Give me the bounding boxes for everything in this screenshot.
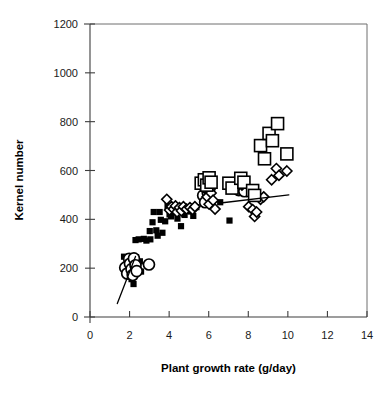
point-open-square [259, 153, 271, 165]
y-tick-label-0: 0 [72, 311, 78, 323]
chart-figure: 020040060080010001200 02468101214 Plant … [0, 0, 390, 393]
y-tick-label-1200: 1200 [54, 18, 78, 30]
y-tick-label-400: 400 [60, 213, 78, 225]
point-open-square [205, 176, 217, 188]
scatter-plot: 020040060080010001200 02468101214 Plant … [0, 0, 390, 393]
point-filled-square [178, 223, 184, 229]
point-open-circle [131, 266, 142, 277]
x-tick-label-4: 4 [166, 329, 172, 341]
point-open-square [255, 140, 267, 152]
y-tick-label-800: 800 [60, 116, 78, 128]
point-filled-square [151, 209, 157, 215]
point-filled-square [130, 281, 136, 287]
x-tick-label-6: 6 [206, 329, 212, 341]
y-tick-label-200: 200 [60, 262, 78, 274]
y-axis-title: Kernel number [13, 139, 25, 221]
data-series-layer [120, 118, 293, 288]
x-axis-tick-labels: 02468101214 [87, 329, 373, 341]
y-tick-label-1000: 1000 [54, 67, 78, 79]
point-open-square [266, 135, 278, 147]
x-tick-label-8: 8 [245, 329, 251, 341]
point-open-square [272, 118, 284, 130]
x-tick-label-10: 10 [282, 329, 294, 341]
y-axis-tick-labels: 020040060080010001200 [54, 18, 78, 323]
x-tick-label-2: 2 [127, 329, 133, 341]
x-tick-label-14: 14 [361, 329, 373, 341]
point-filled-square [226, 217, 232, 223]
y-tick-label-600: 600 [60, 165, 78, 177]
point-open-square [281, 148, 293, 160]
series-open-square [195, 118, 293, 202]
x-axis-title: Plant growth rate (g/day) [161, 362, 296, 374]
point-filled-square [147, 228, 153, 234]
series-open-circle [120, 182, 250, 281]
x-tick-label-12: 12 [321, 329, 333, 341]
point-filled-square [149, 219, 155, 225]
point-open-circle [143, 259, 154, 270]
x-tick-label-0: 0 [87, 329, 93, 341]
point-filled-square [159, 230, 165, 236]
point-filled-square [147, 236, 153, 242]
point-filled-square [153, 227, 159, 233]
trend-lines-layer [117, 195, 289, 304]
point-filled-square [157, 209, 163, 215]
point-filled-square [162, 218, 168, 224]
